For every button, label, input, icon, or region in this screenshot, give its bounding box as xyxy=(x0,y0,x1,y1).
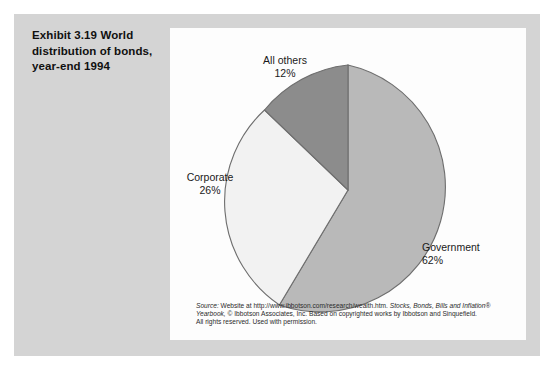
pie-label-all-others-name: All others xyxy=(263,54,307,66)
pie-label-corporate-value: 26% xyxy=(172,184,248,197)
pie-label-government-value: 62% xyxy=(422,254,522,267)
exhibit-panel: Exhibit 3.19 World distribution of bonds… xyxy=(14,14,540,356)
source-yearbook: Yearbook, xyxy=(196,310,226,317)
exhibit-figure: Exhibit 3.19 World distribution of bonds… xyxy=(0,0,554,370)
exhibit-title: Exhibit 3.19 World distribution of bonds… xyxy=(32,28,162,75)
pie-label-government-name: Government xyxy=(422,241,480,253)
pie-label-corporate: Corporate 26% xyxy=(172,171,248,197)
source-note-line-1: Source: Website at http://www.ibbotson.c… xyxy=(196,302,508,310)
source-url-text: Website at http://www.ibbotson.com/resea… xyxy=(219,302,390,309)
source-publication-title: Stocks, Bonds, Bills and Inflation® xyxy=(390,302,491,309)
source-note-line-3: All rights reserved. Used with permissio… xyxy=(196,318,508,326)
pie-label-government: Government 62% xyxy=(422,241,522,267)
pie-chart-area: All others 12% Corporate 26% Government … xyxy=(170,28,526,340)
source-copyright-text: © Ibbotson Associates, Inc. Based on cop… xyxy=(226,310,477,317)
source-note-line-2: Yearbook, © Ibbotson Associates, Inc. Ba… xyxy=(196,310,508,318)
pie-label-all-others: All others 12% xyxy=(248,54,322,80)
pie-label-corporate-name: Corporate xyxy=(187,171,234,183)
source-label: Source: xyxy=(196,302,219,309)
source-note: Source: Website at http://www.ibbotson.c… xyxy=(196,302,508,326)
pie-label-all-others-value: 12% xyxy=(248,67,322,80)
